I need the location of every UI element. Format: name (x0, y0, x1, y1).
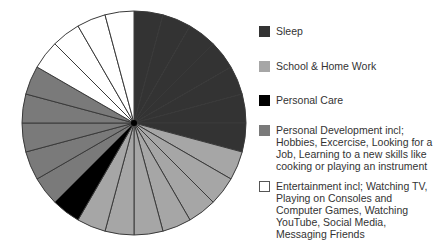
legend-swatch-personal-care (259, 95, 270, 106)
legend-label: Sleep (276, 25, 436, 37)
legend-swatch-personal-development (259, 125, 270, 136)
legend-item-school: School & Home Work (259, 60, 436, 72)
pie-center (131, 120, 137, 126)
legend-label: Personal Care (276, 94, 436, 106)
legend-label: Entertainment incl; Watching TV, Playing… (276, 180, 436, 240)
pie-chart (0, 0, 260, 249)
legend-label: School & Home Work (276, 60, 436, 72)
legend-item-entertainment: Entertainment incl; Watching TV, Playing… (259, 180, 436, 240)
legend-swatch-sleep (259, 26, 270, 37)
legend-swatch-school (259, 61, 270, 72)
legend-item-personal-development: Personal Development incl; Hobbies, Exce… (259, 124, 436, 172)
legend-label: Personal Development incl; Hobbies, Exce… (276, 124, 436, 172)
legend-swatch-entertainment (259, 181, 270, 192)
legend-item-sleep: Sleep (259, 25, 436, 37)
legend-item-personal-care: Personal Care (259, 94, 436, 106)
